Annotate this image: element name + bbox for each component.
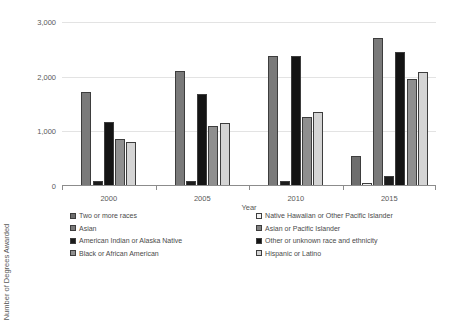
bar	[407, 79, 417, 186]
y-axis-tick-label: 1,000	[4, 127, 56, 136]
bar-groups: 2000200520102015	[62, 22, 436, 186]
bar	[126, 142, 136, 186]
bar	[268, 56, 278, 186]
legend-item-label: Native Hawaiian or Other Pacific Islande…	[265, 212, 393, 219]
x-axis-tick	[343, 186, 344, 190]
bar	[291, 56, 301, 186]
legend-swatch-icon	[70, 213, 76, 219]
legend-item[interactable]: Asian or Pacific Islander	[256, 225, 442, 232]
legend-column-a: Two or more racesAsianAmerican Indian or…	[70, 212, 246, 257]
bar	[197, 94, 207, 186]
legend-item-label: Other or unknown race and ethnicity	[265, 237, 377, 244]
legend-item[interactable]: American Indian or Alaska Native	[70, 237, 246, 244]
x-axis-tick-label: 2015	[343, 194, 437, 203]
y-axis-tick-label: 2,000	[4, 72, 56, 81]
legend-item[interactable]: Other or unknown race and ethnicity	[256, 237, 442, 244]
bar-group-2010: 2010	[249, 22, 343, 186]
plot-area: 01,0002,0003,000 2000200520102015	[62, 22, 436, 186]
legend-swatch-icon	[70, 250, 76, 256]
legend: Two or more racesAsianAmerican Indian or…	[70, 212, 442, 257]
bar	[395, 52, 405, 186]
y-axis-tick-label: 0	[4, 182, 56, 191]
legend-item[interactable]: Asian	[70, 225, 246, 232]
bar	[373, 38, 383, 186]
legend-item[interactable]: Hispanic or Latino	[256, 250, 442, 257]
bar	[175, 71, 185, 186]
x-axis-tick	[435, 186, 436, 190]
x-axis-tick-label: 2000	[62, 194, 156, 203]
bar	[418, 72, 428, 186]
legend-column-b: Native Hawaiian or Other Pacific Islande…	[256, 212, 442, 257]
y-axis-tick-label: 3,000	[4, 18, 56, 27]
legend-item[interactable]: Two or more races	[70, 212, 246, 219]
bar-group-2000: 2000	[62, 22, 156, 186]
legend-swatch-icon	[256, 238, 262, 244]
x-axis-title: Year	[62, 203, 436, 212]
legend-item-label: Asian	[79, 225, 97, 232]
legend-item-label: Hispanic or Latino	[265, 250, 321, 257]
bar-group-2005: 2005	[156, 22, 250, 186]
bar-group-2015: 2015	[343, 22, 437, 186]
legend-item[interactable]: Native Hawaiian or Other Pacific Islande…	[256, 212, 442, 219]
x-axis-tick	[249, 186, 250, 190]
legend-swatch-icon	[256, 213, 262, 219]
bar	[351, 156, 361, 186]
x-axis-tick-label: 2005	[156, 194, 250, 203]
bar	[81, 92, 91, 186]
legend-item-label: Two or more races	[79, 212, 137, 219]
legend-swatch-icon	[256, 225, 262, 231]
legend-item-label: Asian or Pacific Islander	[265, 225, 340, 232]
bar	[115, 139, 125, 186]
x-axis-tick-label: 2010	[249, 194, 343, 203]
bar	[313, 112, 323, 186]
x-axis-tick	[62, 186, 63, 190]
legend-item-label: American Indian or Alaska Native	[79, 237, 182, 244]
bar	[220, 123, 230, 186]
x-axis-line	[62, 185, 436, 186]
bar	[302, 117, 312, 186]
legend-item[interactable]: Black or African American	[70, 250, 246, 257]
legend-item-label: Black or African American	[79, 250, 159, 257]
bar	[104, 122, 114, 186]
legend-swatch-icon	[70, 238, 76, 244]
x-axis-tick	[156, 186, 157, 190]
y-axis-title: Number of Degrees Awarded	[2, 190, 14, 324]
legend-swatch-icon	[70, 225, 76, 231]
bar	[208, 126, 218, 186]
legend-swatch-icon	[256, 250, 262, 256]
